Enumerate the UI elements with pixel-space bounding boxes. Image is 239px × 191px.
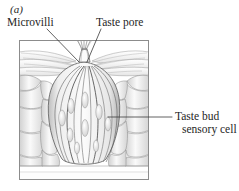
label-microvilli: Microvilli	[7, 16, 54, 29]
label-taste-pore: Taste pore	[96, 16, 143, 29]
label-taste-bud-sensory-cell: Taste budsensory cell	[175, 110, 237, 136]
figure-taste-bud: (a) Microvilli Taste pore Taste budsenso…	[0, 0, 239, 191]
label-sensory-cell-line1: Taste bud	[175, 110, 219, 122]
label-sensory-cell-line2: sensory cell	[175, 123, 237, 136]
illustration-canvas	[19, 37, 149, 180]
panel-letter: (a)	[10, 3, 23, 15]
